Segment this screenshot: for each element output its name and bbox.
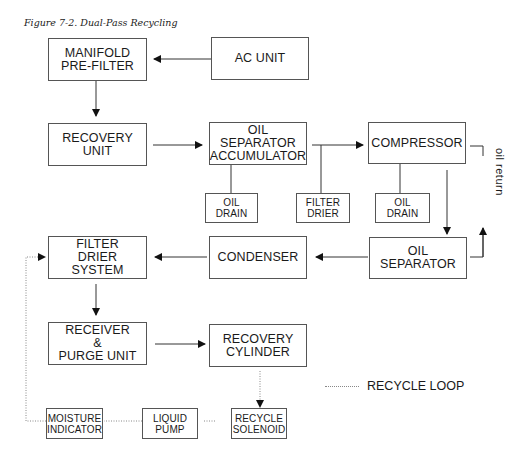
oil-drain-box: OIL DRAIN <box>205 193 258 223</box>
compressor-box: COMPRESSOR <box>368 122 466 164</box>
recycle-solenoid-box: RECYCLE SOLENOID <box>231 408 287 439</box>
ac-unit-box: AC UNIT <box>211 37 309 80</box>
recovery-cylinder-box: RECOVERY CYLINDER <box>209 324 307 367</box>
oil-separator-box: OIL SEPARATOR <box>369 237 467 279</box>
legend-dotted-line <box>325 386 359 387</box>
moisture-indicator-box: MOISTURE INDICATOR <box>46 408 103 439</box>
recovery-unit-box: RECOVERY UNIT <box>48 123 147 166</box>
filter-drier-system-box: FILTER DRIER SYSTEM <box>48 236 147 279</box>
receiver-purge-unit-box: RECEIVER & PURGE UNIT <box>48 322 147 365</box>
oil-return-label: oil return <box>494 148 506 196</box>
condenser-box: CONDENSER <box>209 236 307 279</box>
legend-label: RECYCLE LOOP <box>367 379 464 393</box>
oil-separator-accumulator-box: OIL SEPARATOR ACCUMULATOR <box>209 122 307 165</box>
oil-drain-box-2: OIL DRAIN <box>375 193 430 223</box>
manifold-pre-filter-box: MANIFOLD PRE-FILTER <box>48 38 147 81</box>
liquid-pump-box: LIQUID PUMP <box>142 408 198 439</box>
filter-drier-box: FILTER DRIER <box>296 193 350 223</box>
